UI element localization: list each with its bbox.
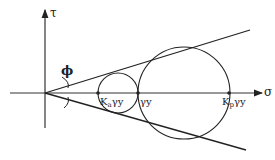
mohr-circle-diagram: τ σ ϕ Kaγy γy Kpγy <box>0 0 275 160</box>
passive-stress-label: Kpγy <box>222 96 246 109</box>
vertical-stress-point <box>136 91 140 95</box>
sigma-axis-label: σ <box>264 85 272 99</box>
upper-failure-envelope <box>45 30 250 93</box>
vertical-stress-label: γy <box>140 96 152 107</box>
active-stress-point <box>96 91 100 95</box>
tau-axis-label: τ <box>50 6 57 20</box>
passive-stress-point <box>227 91 231 95</box>
phi-angle-label: ϕ <box>61 63 73 78</box>
